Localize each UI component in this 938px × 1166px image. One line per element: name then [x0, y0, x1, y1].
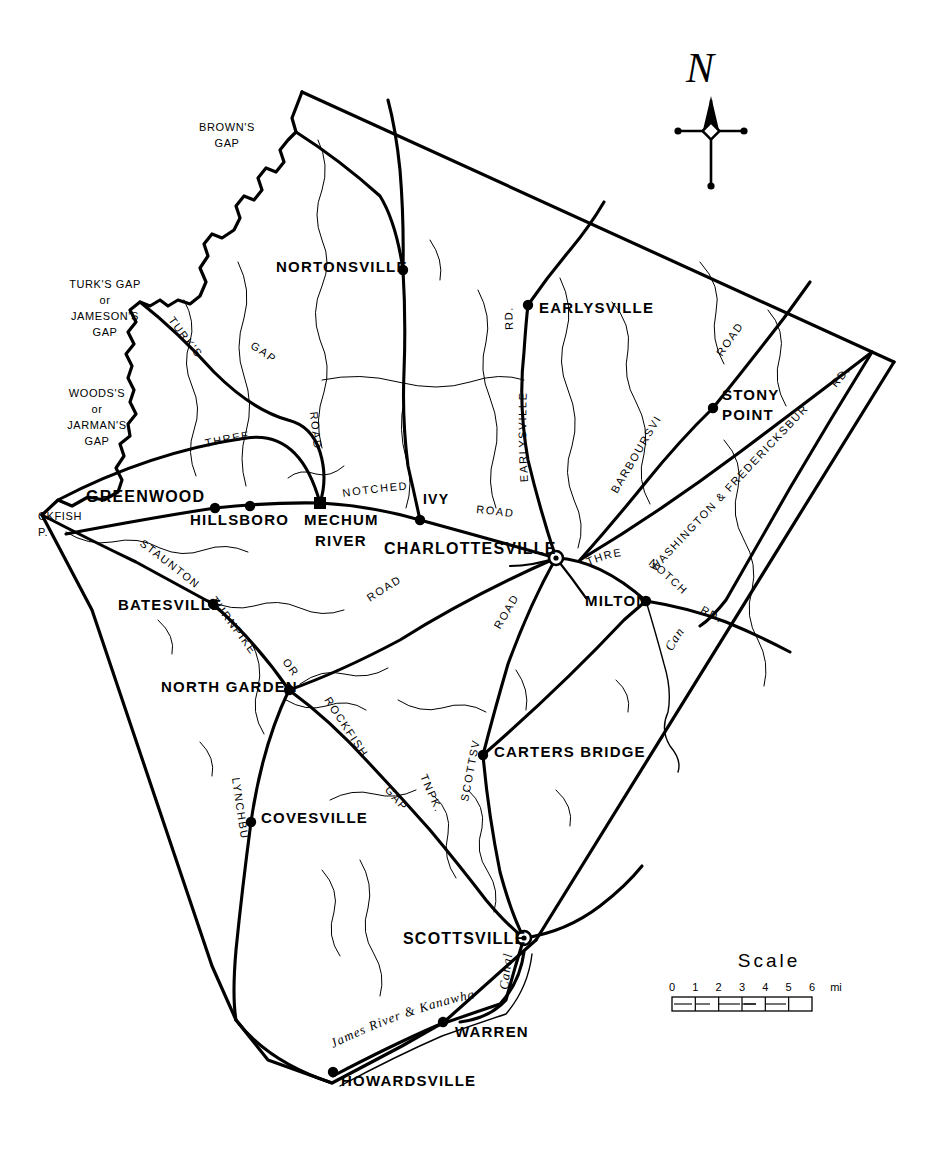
road-label: STAUNTON: [138, 537, 203, 591]
place-label: NORTONSVILLE: [276, 258, 408, 275]
place-label: IVY: [423, 491, 449, 507]
road-label: TURNPIKE: [208, 594, 259, 656]
road-label-text: TURNPIKE: [208, 594, 259, 656]
place-label: CHARLOTTESVILLE: [384, 540, 557, 557]
road-labels: TURK'SGAPROADTHREENOTCHEDROADRD.EARLYSVI…: [0, 0, 853, 1051]
scale-tick-label: 2: [716, 981, 722, 993]
gap-label: P.: [38, 526, 48, 538]
road-label: RD.: [502, 306, 514, 330]
place-marker-dot: [245, 501, 255, 511]
road-label-text: ROCKFISH: [322, 695, 371, 760]
scale-tick-label: 3: [739, 981, 745, 993]
scale-title: Scale: [738, 950, 801, 971]
place-label: WARREN: [455, 1023, 529, 1040]
road-label-text: NOTCHED: [342, 480, 409, 499]
gap-labels: BROWN'SGAPTURK'S GAPorJAMESON'SGAPWOODS'…: [38, 121, 255, 538]
road-label: ROAD: [491, 592, 521, 631]
road-label-text: ROAD: [308, 411, 324, 450]
road-label: RD.: [828, 363, 853, 389]
road-label-text: RD.: [502, 306, 514, 330]
road-label: NOTCHED: [342, 480, 409, 499]
place-marker-dot: [415, 515, 425, 525]
road-label-text: TURK'S: [166, 314, 205, 360]
albemarle-county-map: NORTONSVILLEEARLYSVILLESTONYPOINTGREENWO…: [0, 0, 938, 1166]
gap-label: GAP: [84, 435, 109, 447]
place-label: BATESVILLE: [118, 596, 222, 613]
scale-tick-label: 0: [669, 981, 675, 993]
place-label: STONY: [722, 386, 779, 403]
road-label: ROAD: [365, 573, 404, 603]
place-label: CARTERS BRIDGE: [494, 743, 646, 760]
scale-tick-label: 6: [809, 981, 815, 993]
place-label: MILTON: [585, 592, 648, 609]
scale-unit-label: mi: [830, 981, 842, 993]
road-label-text: TNPK.: [418, 772, 445, 814]
road-label: ROAD: [308, 411, 324, 450]
place-labels: NORTONSVILLEEARLYSVILLESTONYPOINTGREENWO…: [86, 258, 779, 1089]
road-label-text: RD.: [828, 363, 853, 389]
scale-bar-group: Scale 0123456mi: [669, 950, 842, 1011]
place-label: GREENWOOD: [86, 488, 205, 505]
place-marker-dot: [328, 1067, 338, 1077]
place-label: MECHUM: [304, 511, 379, 528]
place-markers: [208, 265, 718, 1077]
road-label: ROAD: [714, 320, 746, 358]
place-marker-square: [314, 497, 326, 509]
road-label-text: STAUNTON: [138, 537, 203, 591]
gap-label: GAP: [214, 137, 239, 149]
place-label: NORTH GARDEN: [161, 678, 298, 695]
scale-tick-label: 5: [786, 981, 792, 993]
road-label-text: ROAD: [491, 592, 521, 631]
road-label-text: OR: [280, 656, 301, 679]
road-label: TURK'S: [166, 314, 205, 360]
compass-north-letter: N: [685, 45, 716, 91]
place-marker-dot: [438, 1017, 448, 1027]
road-label: GAP: [383, 784, 411, 813]
place-label: RIVER: [315, 532, 367, 549]
place-label: HILLSBORO: [190, 511, 289, 528]
road-label: GAP: [249, 339, 279, 365]
gap-label: WOODS'S: [69, 387, 125, 399]
place-marker-dot: [523, 300, 533, 310]
place-label: HOWARDSVILLE: [341, 1072, 476, 1089]
road-label: OR: [280, 656, 301, 679]
gap-label: TURK'S GAP: [69, 278, 141, 290]
gap-label: or: [100, 294, 111, 306]
gap-label: JARMAN'S: [67, 419, 126, 431]
gap-label: JAMESON'S: [71, 310, 139, 322]
gap-label: BROWN'S: [199, 121, 255, 133]
road-label: ROAD: [476, 503, 515, 519]
road-label: TNPK.: [418, 772, 445, 814]
road-label: THREE: [204, 429, 251, 449]
scale-tick-label: 1: [692, 981, 698, 993]
scale-tick-label: 4: [762, 981, 768, 993]
road-label-text: ROAD: [476, 503, 515, 519]
place-label: EARLYSVILLE: [539, 299, 654, 316]
road-label-text: ROAD: [365, 573, 404, 603]
place-label: POINT: [722, 406, 774, 423]
road-label-text: GAP: [249, 339, 279, 365]
place-label: COVESVILLE: [261, 809, 368, 826]
road-label-text: THREE: [204, 429, 251, 449]
road-label-text: ROAD: [714, 320, 746, 358]
road-label: ROCKFISH: [322, 695, 371, 760]
place-label: SCOTTSVILLE: [403, 930, 526, 947]
compass-rose: N: [674, 45, 747, 190]
gap-label: GAP: [92, 326, 117, 338]
road-label-text: EARLYSVILLE: [516, 391, 530, 482]
road-label: EARLYSVILLE: [516, 391, 530, 482]
road-label-text: GAP: [383, 784, 411, 813]
gap-label: CKFISH: [38, 510, 82, 522]
gap-label: or: [92, 403, 103, 415]
map-canvas: NORTONSVILLEEARLYSVILLESTONYPOINTGREENWO…: [0, 0, 938, 1166]
place-marker-dot: [708, 403, 718, 413]
